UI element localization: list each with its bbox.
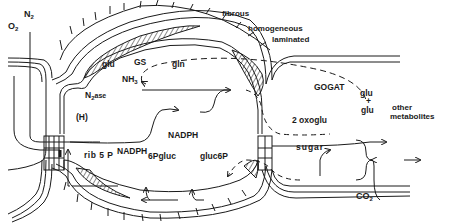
nh3-label: NH3 xyxy=(122,75,138,85)
gln-label: gln xyxy=(172,60,185,69)
glu-label-top: glu xyxy=(102,60,115,69)
gs-label: GS xyxy=(134,58,146,67)
gogat-label: GOGAT xyxy=(314,83,345,92)
oxoglu-label: 2 oxoglu xyxy=(292,116,327,125)
sugar-label: sugar xyxy=(296,143,324,152)
h-label: (H) xyxy=(76,113,88,122)
n2-label: N2 xyxy=(24,10,34,20)
n2ase-label: N2ase xyxy=(85,91,106,101)
o2-label: O2 xyxy=(8,22,18,32)
other-label: other xyxy=(392,104,412,112)
gluc6p-label: gluc6P xyxy=(200,152,228,161)
heterocyst-diagram: O2 N2 fibrous homogeneous laminated glu … xyxy=(0,0,451,223)
nadph-left-label: NADPH xyxy=(117,147,147,156)
metabolites-label: metabolites xyxy=(390,113,434,121)
6pgluc-label: 6Pgluc xyxy=(148,152,176,161)
nadph-mid-label: NADPH xyxy=(168,131,198,140)
laminated-label: laminated xyxy=(272,36,309,44)
homogeneous-label: homogeneous xyxy=(248,25,303,33)
diagram-drawing xyxy=(0,0,451,223)
fibrous-label: fibrous xyxy=(222,10,249,18)
glu-label-right-2: glu xyxy=(361,106,374,115)
co2-label: CO2 xyxy=(356,192,373,202)
rib5p-label: rib 5 P xyxy=(84,151,113,160)
